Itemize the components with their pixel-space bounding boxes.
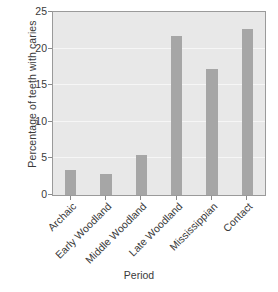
bar-early-woodland — [100, 174, 112, 195]
gridline — [53, 121, 265, 122]
bar-archaic — [65, 170, 77, 195]
y-axis-tick-label: 0 — [6, 188, 52, 200]
y-axis-tick-label: 20 — [6, 42, 52, 54]
gridline — [53, 84, 265, 85]
x-axis-tick-group: ArchaicEarly WoodlandMiddle WoodlandLate… — [52, 196, 266, 266]
bar-late-woodland — [171, 36, 183, 195]
y-axis-tick-label: 10 — [6, 115, 52, 127]
x-axis-tick-mark — [246, 196, 247, 200]
gridline — [53, 48, 265, 49]
bar-middle-woodland — [136, 155, 148, 195]
x-axis-title: Period — [0, 269, 278, 281]
y-axis-tick-label: 15 — [6, 78, 52, 90]
bar-chart-figure: Percentage of teeth with caries 05101520… — [0, 0, 278, 292]
bar-mississippian — [206, 69, 218, 195]
plot-area — [52, 11, 266, 196]
bar-contact — [242, 29, 254, 195]
gridline — [53, 157, 265, 158]
y-axis-tick-label: 25 — [6, 5, 52, 17]
y-axis-tick-label: 5 — [6, 151, 52, 163]
x-axis-tick-mark — [140, 196, 141, 200]
